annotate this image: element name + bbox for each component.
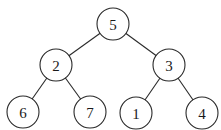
node-label: 4 xyxy=(198,106,206,122)
tree-node-1: 1 xyxy=(120,97,152,129)
tree-node-5: 5 xyxy=(97,8,129,40)
node-label: 6 xyxy=(19,105,27,121)
binary-tree-diagram: 5236714 xyxy=(0,0,221,130)
node-label: 2 xyxy=(52,58,60,74)
tree-node-2: 2 xyxy=(40,49,72,81)
tree-node-7: 7 xyxy=(74,96,106,128)
node-label: 3 xyxy=(165,58,173,74)
tree-nodes: 5236714 xyxy=(7,8,218,129)
node-label: 1 xyxy=(132,106,140,122)
tree-node-4: 4 xyxy=(186,97,218,129)
node-label: 5 xyxy=(109,17,117,33)
tree-node-3: 3 xyxy=(153,49,185,81)
tree-node-6: 6 xyxy=(7,96,39,128)
node-label: 7 xyxy=(86,105,94,121)
